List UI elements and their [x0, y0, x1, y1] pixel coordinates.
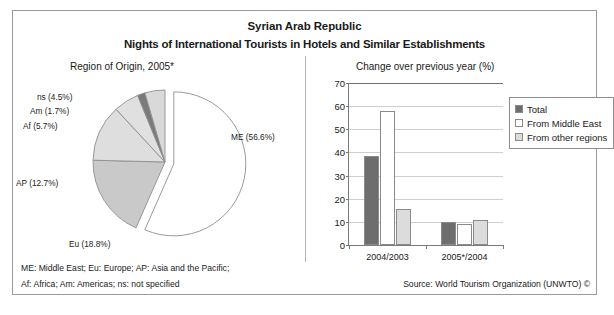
pie-chart-title: Region of Origin, 2005*	[70, 61, 174, 72]
x-tickmark-2	[503, 245, 504, 249]
footnote-line2: Af: Africa; Am: Americas; ns: not specif…	[21, 279, 180, 289]
x-axis-label-2: 2005*/2004	[441, 252, 487, 262]
legend-item-total: Total	[515, 102, 607, 116]
panel-divider	[305, 56, 306, 262]
bar-other-2	[473, 220, 488, 245]
bar-total-1	[364, 156, 379, 245]
bar-group-1	[349, 83, 426, 245]
figure-title-line1: Syrian Arab Republic	[13, 20, 596, 32]
pie-label-me: ME (56.6%)	[231, 132, 275, 142]
pie-label-eu: Eu (18.8%)	[69, 239, 111, 249]
pie-label-ap: AP (12.7%)	[16, 178, 58, 188]
y-tick-label-70: 70	[334, 78, 345, 89]
y-tick-label-60: 60	[334, 101, 345, 112]
legend-item-other-regions: From other regions	[515, 130, 607, 144]
y-tick-label-20: 20	[334, 193, 345, 204]
bar-total-2	[441, 222, 456, 245]
legend-swatch-middle-east	[515, 119, 523, 127]
bar-me-1	[380, 111, 395, 245]
y-tick-label-40: 40	[334, 147, 345, 158]
legend-label-total: Total	[527, 104, 547, 115]
legend-label-other-regions: From other regions	[527, 132, 607, 143]
figure-frame: Syrian Arab Republic Nights of Internati…	[12, 10, 597, 295]
bar-chart-title: Change over previous year (%)	[356, 61, 494, 72]
bar-plot-area: 706050403020100 2004/20032005*/2004	[348, 83, 503, 246]
y-tick-label-10: 10	[334, 216, 345, 227]
x-tickmark-1	[426, 245, 427, 249]
bar-me-2	[457, 224, 472, 245]
x-tickmark-origin	[349, 245, 350, 249]
bar-group-2	[426, 83, 503, 245]
footnote-line1: ME: Middle East; Eu: Europe; AP: Asia an…	[21, 263, 229, 273]
pie-chart: ns (4.5%) Am (1.7%) Af (5.7%) AP (12.7%)…	[13, 79, 301, 254]
figure-title-line2: Nights of International Tourists in Hote…	[13, 38, 596, 50]
bar-chart: 706050403020100 2004/20032005*/2004 Tota…	[313, 77, 596, 267]
pie-label-af: Af (5.7%)	[23, 121, 58, 131]
bar-other-1	[396, 209, 411, 245]
pie-label-ns: ns (4.5%)	[37, 92, 73, 102]
pie-label-am: Am (1.7%)	[30, 106, 69, 116]
y-tick-label-30: 30	[334, 170, 345, 181]
y-tick-label-50: 50	[334, 124, 345, 135]
legend-swatch-total	[515, 105, 523, 113]
source-note: Source: World Tourism Organization (UNWT…	[403, 279, 590, 289]
legend-item-middle-east: From Middle East	[515, 116, 607, 130]
legend-label-middle-east: From Middle East	[527, 118, 601, 129]
x-axis-label-1: 2004/2003	[366, 252, 409, 262]
legend-swatch-other-regions	[515, 133, 523, 141]
bar-chart-legend: Total From Middle East From other region…	[509, 97, 614, 149]
y-tick-label-0: 0	[340, 240, 345, 251]
